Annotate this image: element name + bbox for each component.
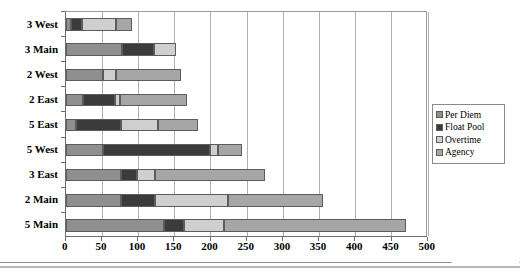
stacked-bar[interactable] xyxy=(66,119,198,132)
category-tick xyxy=(61,86,65,87)
bar-row xyxy=(66,112,426,137)
legend-swatch-overtime xyxy=(436,136,443,143)
bar-row xyxy=(66,163,426,188)
bar-segment-overtime[interactable] xyxy=(82,18,117,31)
bar-segment-per-diem[interactable] xyxy=(66,194,121,207)
category-label: 5 West xyxy=(0,143,58,155)
category-label: 5 East xyxy=(0,118,58,130)
category-tick xyxy=(61,111,65,112)
stacked-bar[interactable] xyxy=(66,94,188,107)
x-tick-label-150: 150 xyxy=(165,240,182,252)
legend-item-per-diem[interactable]: Per Diem xyxy=(436,109,500,121)
category-tick xyxy=(61,11,65,12)
legend-item-float-pool[interactable]: Float Pool xyxy=(436,122,500,134)
bar-segment-agency[interactable] xyxy=(158,119,198,132)
page-corner-fold xyxy=(451,258,520,264)
stacked-bar[interactable] xyxy=(66,219,406,232)
plot-area xyxy=(65,11,427,237)
category-tick xyxy=(61,137,65,138)
bar-segment-agency[interactable] xyxy=(228,194,323,207)
gridline-500 xyxy=(428,12,429,236)
stacked-bar[interactable] xyxy=(66,18,132,31)
bar-segment-agency[interactable] xyxy=(120,94,187,107)
legend-label-overtime: Overtime xyxy=(445,135,481,145)
bar-row xyxy=(66,138,426,163)
bar-segment-agency[interactable] xyxy=(116,69,180,82)
bar-segment-overtime[interactable] xyxy=(154,43,176,56)
bar-row xyxy=(66,188,426,213)
x-tick-label-400: 400 xyxy=(346,240,363,252)
page-edge-line xyxy=(0,262,520,263)
category-label: 3 West xyxy=(0,18,58,30)
category-tick xyxy=(61,187,65,188)
bar-segment-per-diem[interactable] xyxy=(66,69,103,82)
stacked-bar[interactable] xyxy=(66,43,176,56)
chart-legend: Per Diem Float Pool Overtime Agency xyxy=(432,104,505,164)
category-label: 5 Main xyxy=(0,218,58,230)
category-label: 2 West xyxy=(0,68,58,80)
bar-segment-per-diem[interactable] xyxy=(66,219,164,232)
bar-segment-overtime[interactable] xyxy=(103,69,117,82)
stacked-bar[interactable] xyxy=(66,144,243,157)
legend-item-agency[interactable]: Agency xyxy=(436,147,500,159)
bar-segment-agency[interactable] xyxy=(224,219,406,232)
bar-segment-float-pool[interactable] xyxy=(122,43,154,56)
x-tick-label-350: 350 xyxy=(310,240,327,252)
bar-segment-overtime[interactable] xyxy=(184,219,224,232)
category-tick xyxy=(61,36,65,37)
category-label: 2 East xyxy=(0,93,58,105)
bar-segment-per-diem[interactable] xyxy=(66,144,103,157)
category-tick xyxy=(61,162,65,163)
x-tick-label-450: 450 xyxy=(382,240,399,252)
bar-segment-agency[interactable] xyxy=(116,18,131,31)
x-tick-label-300: 300 xyxy=(274,240,291,252)
legend-label-agency: Agency xyxy=(445,147,475,157)
category-tick xyxy=(61,61,65,62)
bar-segment-per-diem[interactable] xyxy=(66,94,83,107)
bar-segment-float-pool[interactable] xyxy=(164,219,184,232)
category-label: 3 East xyxy=(0,168,58,180)
bar-row xyxy=(66,12,426,37)
bar-segment-float-pool[interactable] xyxy=(121,194,156,207)
legend-label-per-diem: Per Diem xyxy=(445,110,481,120)
bar-segment-per-diem[interactable] xyxy=(66,43,122,56)
bar-row xyxy=(66,62,426,87)
x-axis-labels: 050100150200250300350400450500 xyxy=(0,240,520,256)
page-edge-shadow xyxy=(0,266,520,268)
bar-segment-overtime[interactable] xyxy=(121,119,159,132)
bar-segment-agency[interactable] xyxy=(155,169,264,182)
legend-swatch-agency xyxy=(436,149,443,156)
bar-segment-overtime[interactable] xyxy=(210,144,218,157)
bar-segment-float-pool[interactable] xyxy=(71,18,82,31)
x-tick-label-0: 0 xyxy=(62,240,68,252)
legend-swatch-per-diem xyxy=(436,111,443,118)
bar-segment-overtime[interactable] xyxy=(155,194,227,207)
x-tick-label-50: 50 xyxy=(95,240,106,252)
bar-segment-agency[interactable] xyxy=(218,144,242,157)
x-tick-label-100: 100 xyxy=(129,240,146,252)
stacked-bar[interactable] xyxy=(66,194,323,207)
bar-segment-float-pool[interactable] xyxy=(83,94,115,107)
bar-segment-float-pool[interactable] xyxy=(76,119,121,132)
legend-swatch-float-pool xyxy=(436,124,443,131)
legend-item-overtime[interactable]: Overtime xyxy=(436,134,500,146)
bar-rows xyxy=(66,12,426,236)
x-tick-label-250: 250 xyxy=(237,240,254,252)
category-tick xyxy=(61,212,65,213)
chart-screenshot: 3 West3 Main2 West2 East5 East5 West3 Ea… xyxy=(0,0,520,273)
stacked-bar[interactable] xyxy=(66,69,181,82)
bar-segment-per-diem[interactable] xyxy=(66,169,121,182)
bar-row xyxy=(66,213,426,238)
category-label: 3 Main xyxy=(0,43,58,55)
x-tick-label-200: 200 xyxy=(201,240,218,252)
bar-row xyxy=(66,87,426,112)
bar-row xyxy=(66,37,426,62)
stacked-bar[interactable] xyxy=(66,169,265,182)
legend-label-float-pool: Float Pool xyxy=(445,122,484,132)
x-tick-label-500: 500 xyxy=(418,240,435,252)
bar-segment-per-diem[interactable] xyxy=(66,119,76,132)
category-label: 2 Main xyxy=(0,193,58,205)
bar-segment-float-pool[interactable] xyxy=(121,169,137,182)
bar-segment-float-pool[interactable] xyxy=(103,144,211,157)
bar-segment-overtime[interactable] xyxy=(137,169,156,182)
